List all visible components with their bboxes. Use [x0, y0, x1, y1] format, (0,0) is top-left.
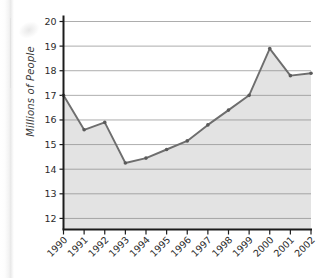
x-tick-label: 2002 — [292, 234, 317, 259]
data-point — [247, 94, 251, 98]
x-tick-label: 1996 — [168, 234, 193, 259]
y-tick-label: 12 — [44, 213, 56, 224]
data-point — [185, 139, 189, 143]
x-tick-label: 2000 — [251, 234, 276, 259]
data-point — [289, 74, 293, 78]
x-tick-label: 1997 — [189, 234, 214, 259]
data-point — [309, 71, 313, 75]
data-point — [124, 161, 128, 165]
x-axis-ticks: 1990199119921993199419951996199719981999… — [45, 230, 317, 260]
data-point — [103, 121, 107, 125]
data-point — [165, 148, 169, 152]
x-tick-label: 1995 — [148, 234, 173, 259]
x-tick-label: 1993 — [106, 234, 131, 259]
y-tick-label: 16 — [44, 114, 56, 125]
x-tick-label: 1990 — [45, 234, 70, 259]
y-tick-label: 19 — [44, 41, 56, 52]
data-point — [227, 108, 231, 112]
y-tick-label: 13 — [44, 188, 56, 199]
y-tick-label: 15 — [44, 139, 56, 150]
x-tick-label: 1992 — [86, 234, 111, 259]
series-area-fill — [64, 49, 312, 230]
chart-container: Millions of People 121314151617181920199… — [0, 0, 332, 278]
data-point — [206, 123, 210, 127]
x-tick-label: 1999 — [230, 234, 255, 259]
x-tick-label: 1994 — [127, 234, 152, 259]
data-point — [144, 156, 148, 160]
y-tick-label: 14 — [44, 164, 56, 175]
y-tick-label: 17 — [44, 90, 56, 101]
x-tick-label: 1998 — [210, 234, 235, 259]
x-tick-label: 2001 — [271, 234, 296, 259]
y-tick-label: 20 — [44, 16, 56, 27]
chart-plot-area: 1213141516171819201990199119921993199419… — [0, 0, 332, 278]
y-tick-label: 18 — [44, 65, 56, 76]
x-tick-label: 1991 — [65, 234, 90, 259]
y-axis-ticks: 121314151617181920 — [44, 16, 63, 224]
data-point — [268, 47, 272, 51]
chart-body — [64, 49, 312, 230]
data-point — [82, 128, 86, 132]
